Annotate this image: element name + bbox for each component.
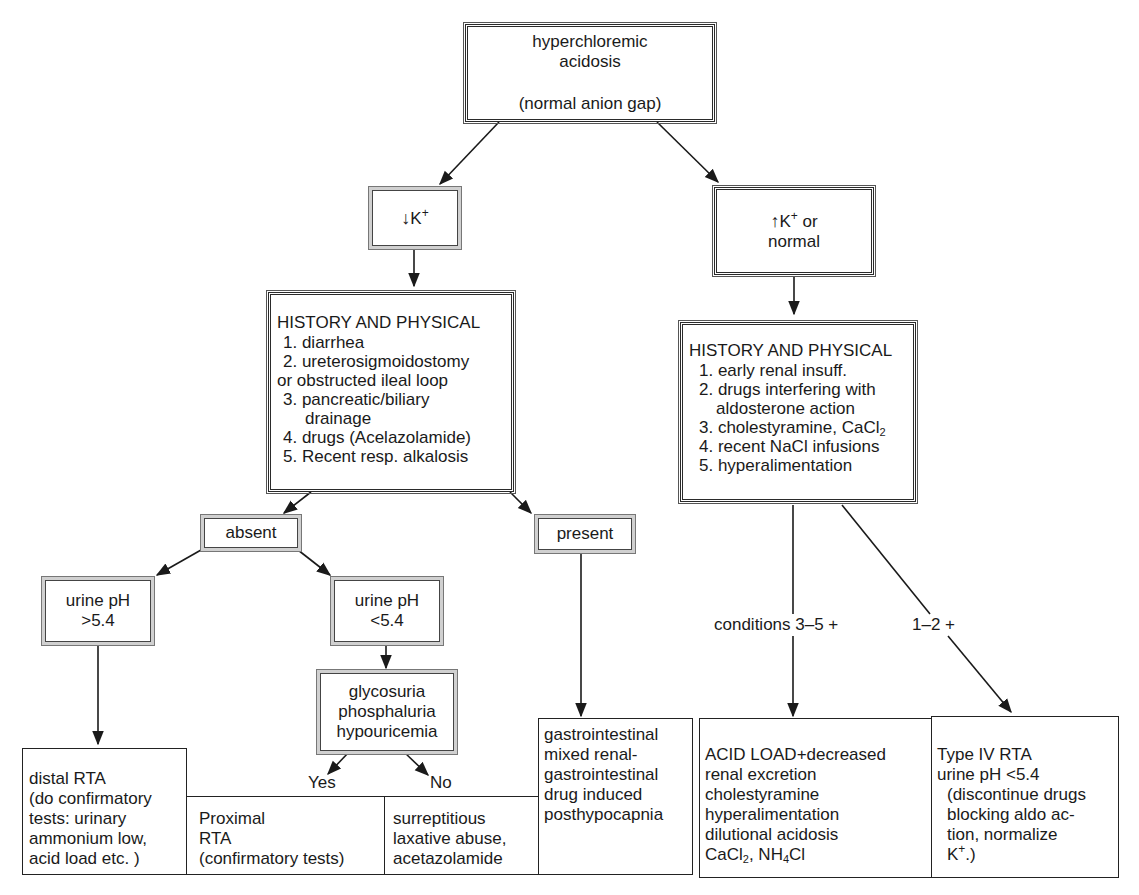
high-k-label: ↑K+ or: [770, 211, 817, 232]
outcome-gastrointestinal: gastrointestinal mixed renal- gastrointe…: [538, 718, 693, 875]
history-physical-low-k: HISTORY AND PHYSICAL 1. diarrhea 2. uret…: [268, 292, 514, 492]
hp-left-item: or obstructed ileal loop: [277, 371, 511, 390]
root-title-line1: hyperchloremic: [532, 32, 647, 52]
hp-right-item: 5. hyperalimentation: [699, 456, 913, 475]
outcome-type-iv-rta: Type IV RTA urine pH <5.4 (discontinue d…: [931, 716, 1119, 878]
down-arrow-icon: ↓: [401, 208, 410, 228]
node-high-or-normal-potassium: ↑K+ or normal: [714, 187, 874, 275]
node-absent: absent: [204, 518, 298, 548]
node-low-potassium: ↓K+: [372, 190, 458, 246]
edge-label-yes: Yes: [306, 773, 338, 793]
hp-left-list: 1. diarrhea 2. ureterosigmoidostomy or o…: [277, 333, 511, 466]
root-title-line2: acidosis: [559, 52, 620, 72]
hp-right-item: 2. drugs interfering with: [699, 380, 913, 399]
hp-left-title: HISTORY AND PHYSICAL: [277, 313, 511, 333]
hp-left-item: 3. pancreatic/biliary: [283, 390, 511, 409]
hp-right-list: 1. early renal insuff. 2. drugs interfer…: [689, 361, 913, 475]
edge-label-no: No: [428, 773, 454, 793]
node-urine-ph-low: urine pH <5.4: [334, 580, 440, 642]
node-urine-ph-high: urine pH >5.4: [45, 580, 151, 642]
acid-load-chemicals: CaCl2, NH4Cl: [705, 845, 931, 865]
edge-label-1-2: 1–2 +: [910, 615, 957, 635]
low-k-label: ↓K+: [401, 208, 428, 229]
type4-last-line: K+.): [937, 845, 1118, 865]
root-subtitle: (normal anion gap): [519, 94, 662, 114]
hp-left-item: 2. ureterosigmoidostomy: [283, 352, 511, 371]
outcome-distal-rta: distal RTA (do confirmatory tests: urina…: [22, 748, 187, 875]
history-physical-high-k: HISTORY AND PHYSICAL 1. early renal insu…: [680, 322, 916, 502]
hp-right-title: HISTORY AND PHYSICAL: [689, 341, 913, 361]
root-node-hyperchloremic-acidosis: hyperchloremic acidosis (normal anion ga…: [465, 24, 715, 122]
node-present: present: [538, 518, 632, 550]
outcome-proximal-rta: Proximal RTA (confirmatory tests): [186, 796, 385, 875]
hp-left-item: 1. diarrhea: [283, 333, 511, 352]
hp-left-item: drainage: [283, 409, 511, 428]
hp-left-item: 4. drugs (Acelazolamide): [283, 428, 511, 447]
hp-right-item: 3. cholestyramine, CaCl2: [699, 418, 913, 437]
outcome-laxative-abuse: surreptitious laxative abuse, acetazolam…: [384, 796, 539, 875]
high-k-line2: normal: [768, 232, 820, 252]
outcome-acid-load: ACID LOAD+decreased renal excretion chol…: [699, 718, 932, 878]
hp-right-item: 1. early renal insuff.: [699, 361, 913, 380]
hp-right-item: 4. recent NaCl infusions: [699, 437, 913, 456]
edge-label-conditions-3-5: conditions 3–5 +: [712, 615, 840, 635]
hp-left-item: 5. Recent resp. alkalosis: [283, 447, 511, 466]
hp-right-item: aldosterone action: [699, 399, 913, 418]
node-glycosuria-phosphaluria-hypouricemia: glycosuria phosphaluria hypouricemia: [320, 673, 454, 751]
